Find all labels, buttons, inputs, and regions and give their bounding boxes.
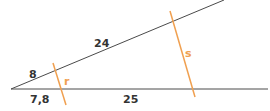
label-lower-long: 25 <box>123 93 138 106</box>
upper-ray <box>11 0 224 89</box>
label-upper-short: 8 <box>29 68 37 81</box>
label-upper-long: 24 <box>94 37 110 50</box>
label-lower-short: 7,8 <box>30 93 50 106</box>
diagram-svg: 8 24 7,8 25 r s <box>0 0 270 111</box>
label-r: r <box>64 75 70 88</box>
diagram-canvas: 8 24 7,8 25 r s <box>0 0 270 111</box>
label-s: s <box>185 47 192 60</box>
